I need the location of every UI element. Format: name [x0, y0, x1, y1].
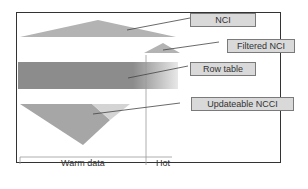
nci-label: NCI	[190, 13, 256, 27]
nci-leader	[127, 18, 190, 30]
updateable-ncci-label: Updateable NCCI	[191, 97, 294, 111]
hot-label: Hot	[156, 158, 170, 168]
filtered-nci-label: Filtered NCI	[227, 39, 295, 53]
nci-triangle	[20, 20, 176, 37]
row-table-label: Row table	[190, 62, 256, 76]
diagram-shapes	[0, 0, 308, 189]
warm-data-label: Warm data	[61, 158, 105, 168]
updateable-ncci-triangle	[20, 104, 110, 145]
filtered-nci-leader	[163, 42, 219, 50]
row-table-rect	[18, 62, 178, 89]
